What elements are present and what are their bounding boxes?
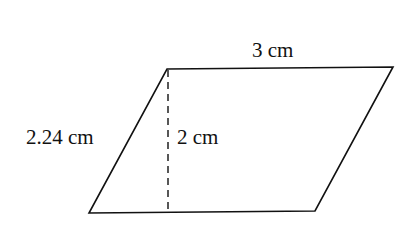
top-side-label: 3 cm: [252, 40, 293, 61]
parallelogram-shape: [89, 67, 393, 213]
parallelogram-diagram: [0, 0, 410, 233]
slant-side-label: 2.24 cm: [26, 127, 94, 148]
height-label: 2 cm: [177, 127, 218, 148]
